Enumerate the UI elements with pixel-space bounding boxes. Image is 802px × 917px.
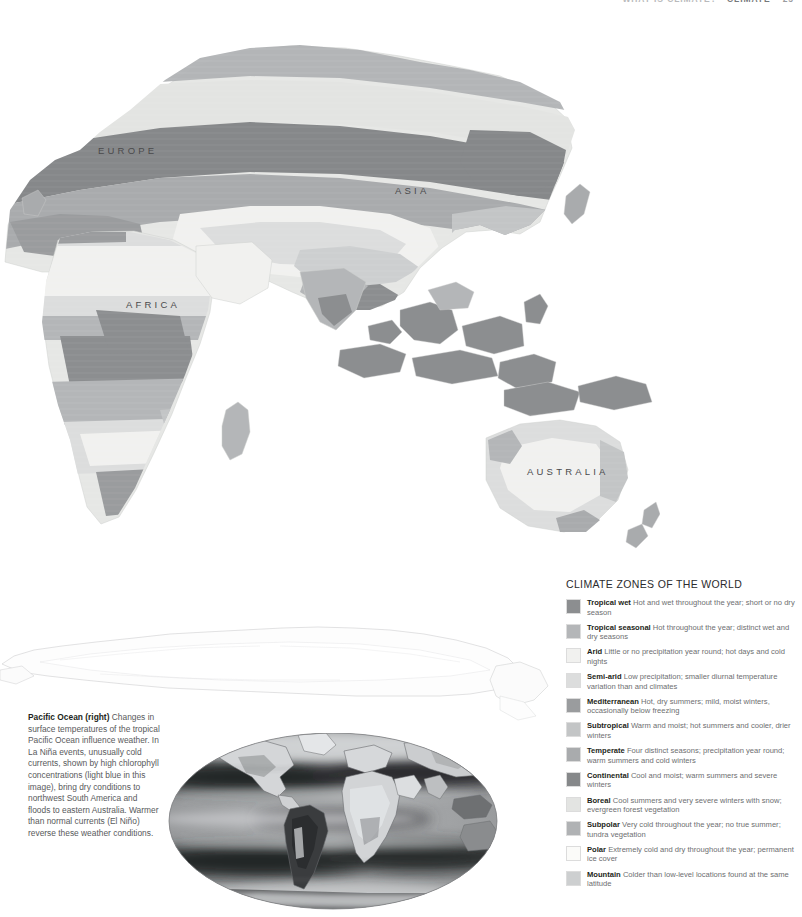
pacific-ocean-chlorophyll-mollweide (168, 733, 498, 917)
legend-swatch (566, 673, 581, 688)
running-header: WHAT IS CLIMATE? CLIMATE 25 (622, 0, 794, 4)
legend-item-text: Polar Extremely cold and dry throughout … (587, 845, 796, 864)
legend-row: Arid Little or no precipitation year rou… (566, 647, 796, 666)
atlas-page: WHAT IS CLIMATE? CLIMATE 25 (0, 0, 802, 917)
legend-row: Mountain Colder than low-level locations… (566, 870, 796, 889)
antarctica-landmass: ANTARCTICA (0, 600, 560, 725)
legend-swatch (566, 599, 581, 614)
legend-item-name: Subtropical (587, 721, 629, 730)
header-section: WHAT IS CLIMATE? (622, 0, 716, 4)
legend-item-text: Mountain Colder than low-level locations… (587, 870, 796, 889)
legend-row: Polar Extremely cold and dry throughout … (566, 845, 796, 864)
legend-row: Temperate Four distinct seasons; precipi… (566, 746, 796, 765)
legend-item-text: Continental Cool and moist; warm summers… (587, 771, 796, 790)
legend-row: Continental Cool and moist; warm summers… (566, 771, 796, 790)
legend-title: CLIMATE ZONES OF THE WORLD (566, 578, 796, 590)
header-topic: CLIMATE (727, 0, 770, 4)
legend-row: Tropical wet Hot and wet throughout the … (566, 598, 796, 617)
legend-item-text: Temperate Four distinct seasons; precipi… (587, 746, 796, 765)
legend-item-name: Continental (587, 771, 629, 780)
legend-swatch (566, 747, 581, 762)
legend-swatch (566, 722, 581, 737)
legend-item-text: Tropical wet Hot and wet throughout the … (587, 598, 796, 617)
legend-item-name: Arid (587, 647, 602, 656)
legend-item-text: Subpolar Very cold throughout the year; … (587, 820, 796, 839)
legend-item-description: Little or no precipitation year round; h… (587, 647, 785, 666)
legend-item-name: Mediterranean (587, 697, 639, 706)
legend-item-text: Subtropical Warm and moist; hot summers … (587, 721, 796, 740)
legend-swatch (566, 698, 581, 713)
legend-item-name: Polar (587, 845, 606, 854)
legend-swatch (566, 624, 581, 639)
legend-item-name: Mountain (587, 870, 621, 879)
legend-item-name: Boreal (587, 796, 611, 805)
legend-item-text: Mediterranean Hot, dry summers; mild, mo… (587, 697, 796, 716)
legend-rows: Tropical wet Hot and wet throughout the … (566, 598, 796, 889)
legend-row: Subpolar Very cold throughout the year; … (566, 820, 796, 839)
legend-swatch (566, 772, 581, 787)
legend-item-name: Temperate (587, 746, 625, 755)
legend-row: Mediterranean Hot, dry summers; mild, mo… (566, 697, 796, 716)
legend-item-text: Boreal Cool summers and very severe wint… (587, 796, 796, 815)
australia-landmass (470, 410, 650, 550)
legend-item-text: Tropical seasonal Hot throughout the yea… (587, 623, 796, 642)
legend-swatch (566, 648, 581, 663)
legend-swatch (566, 846, 581, 861)
legend-row: Boreal Cool summers and very severe wint… (566, 796, 796, 815)
caption-title: Pacific Ocean (right) (28, 712, 109, 722)
legend-item-name: Semi-arid (587, 672, 622, 681)
pacific-ocean-caption: Pacific Ocean (right) Changes in surface… (28, 712, 160, 840)
page-number: 25 (783, 0, 794, 4)
legend-item-description: Cool summers and very severe winters wit… (587, 796, 782, 815)
legend-item-name: Tropical seasonal (587, 623, 651, 632)
world-climate-zones-map: EUROPE ASIA AFRICA AUSTRALIA (0, 10, 660, 570)
legend-item-description: Extremely cold and dry throughout the ye… (587, 845, 794, 864)
legend-item-name: Tropical wet (587, 598, 631, 607)
legend-item-text: Semi-arid Low precipitation; smaller diu… (587, 672, 796, 691)
legend-row: Tropical seasonal Hot throughout the yea… (566, 623, 796, 642)
legend-row: Subtropical Warm and moist; hot summers … (566, 721, 796, 740)
legend-row: Semi-arid Low precipitation; smaller diu… (566, 672, 796, 691)
caption-body: Changes in surface temperatures of the t… (28, 712, 160, 838)
climate-legend: CLIMATE ZONES OF THE WORLD Tropical wet … (566, 578, 796, 894)
legend-swatch (566, 797, 581, 812)
legend-item-text: Arid Little or no precipitation year rou… (587, 647, 796, 666)
legend-swatch (566, 821, 581, 836)
legend-swatch (566, 871, 581, 886)
legend-item-name: Subpolar (587, 820, 620, 829)
